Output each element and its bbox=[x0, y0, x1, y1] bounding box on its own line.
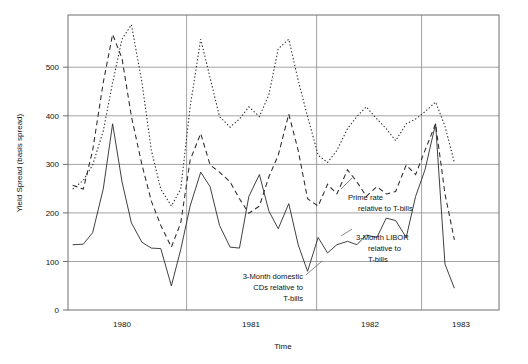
y-tick-label-0: 0 bbox=[55, 306, 60, 315]
yield-spread-chart: 0 100 200 300 400 500 Yield Spread (basi… bbox=[0, 0, 528, 364]
y-axis-title: Yield Spread (basis spread) bbox=[15, 113, 24, 212]
annotation-libor-line-2: relative to bbox=[368, 244, 401, 253]
x-tick-label-1983: 1983 bbox=[452, 320, 470, 329]
x-tick-label-1981: 1981 bbox=[242, 320, 260, 329]
y-tick-label-400: 400 bbox=[46, 112, 60, 121]
y-tick-label-500: 500 bbox=[46, 63, 60, 72]
annotation-prime-rate-line-2: relative to T-bills bbox=[358, 204, 413, 213]
annotation-cds-line-3: T-bills bbox=[283, 294, 303, 303]
annotation-libor-line-3: T-bills bbox=[368, 255, 388, 264]
y-tick-label-300: 300 bbox=[46, 160, 60, 169]
x-axis-title: Time bbox=[274, 342, 292, 351]
y-tick-label-100: 100 bbox=[46, 258, 60, 267]
x-tick-label-1982: 1982 bbox=[361, 320, 379, 329]
annotation-cds-line-1: 3-Month domestic bbox=[243, 272, 304, 281]
x-tick-label-1980: 1980 bbox=[113, 320, 131, 329]
annotation-cds-line-2: CDs relative to bbox=[253, 283, 303, 292]
y-tick-label-200: 200 bbox=[46, 209, 60, 218]
annotation-libor-line-1: 3-Month LIBOR bbox=[356, 233, 409, 242]
chart-background bbox=[0, 0, 528, 364]
annotation-prime-rate-line-1: Prime rate bbox=[348, 193, 383, 202]
